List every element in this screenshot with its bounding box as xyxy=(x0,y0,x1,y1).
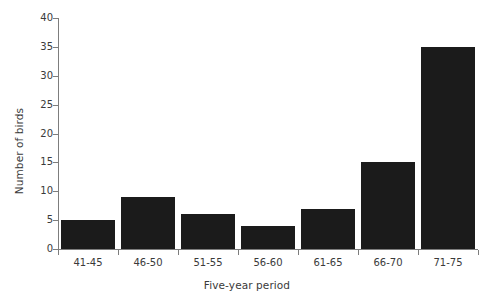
y-tick-label: 40 xyxy=(29,13,53,23)
y-tick-mark xyxy=(53,162,58,163)
x-tick-label: 51-55 xyxy=(178,258,238,268)
x-tick-label: 61-65 xyxy=(298,258,358,268)
y-tick-label: 25 xyxy=(29,100,53,110)
x-tick-label: 71-75 xyxy=(418,258,478,268)
x-tick-label: 46-50 xyxy=(118,258,178,268)
y-tick-label: 30 xyxy=(29,71,53,81)
y-tick-label: 0 xyxy=(29,244,53,254)
bar xyxy=(181,214,234,249)
x-axis-title: Five-year period xyxy=(0,279,494,291)
bar xyxy=(121,197,174,249)
y-tick-mark xyxy=(53,47,58,48)
y-axis-title: Number of birds xyxy=(8,0,30,302)
x-tick-label: 66-70 xyxy=(358,258,418,268)
y-tick-label: 5 xyxy=(29,215,53,225)
bar-chart: Number of birds 0510152025303540 41-4546… xyxy=(0,0,494,302)
y-tick-label: 10 xyxy=(29,186,53,196)
x-tick-label: 41-45 xyxy=(58,258,118,268)
x-tick-mark xyxy=(238,250,239,255)
y-tick-mark xyxy=(53,220,58,221)
y-axis-line xyxy=(58,18,59,250)
y-tick-label: 20 xyxy=(29,129,53,139)
x-tick-mark xyxy=(298,250,299,255)
y-tick-mark xyxy=(53,134,58,135)
bar xyxy=(421,47,474,249)
y-tick-label: 15 xyxy=(29,157,53,167)
y-tick-mark xyxy=(53,76,58,77)
y-tick-mark xyxy=(53,191,58,192)
x-tick-mark xyxy=(118,250,119,255)
y-tick-mark xyxy=(53,105,58,106)
x-tick-mark xyxy=(358,250,359,255)
y-tick-mark xyxy=(53,18,58,19)
x-tick-mark xyxy=(478,250,479,255)
y-tick-label: 35 xyxy=(29,42,53,52)
bar xyxy=(241,226,294,249)
x-axis-line xyxy=(58,249,478,250)
x-tick-mark xyxy=(418,250,419,255)
x-tick-mark xyxy=(178,250,179,255)
bar xyxy=(361,162,414,249)
bar xyxy=(61,220,114,249)
x-tick-mark xyxy=(58,250,59,255)
x-tick-label: 56-60 xyxy=(238,258,298,268)
bar xyxy=(301,209,354,249)
